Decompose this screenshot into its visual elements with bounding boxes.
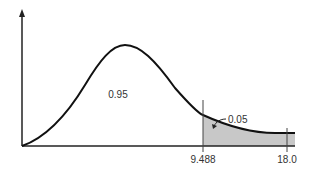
density-curve — [22, 45, 295, 146]
chi-square-chart: 0.95 0.05 9.488 18.0 — [0, 0, 314, 174]
tick-label-critical: 9.488 — [190, 154, 215, 165]
tick-label-right: 18.0 — [277, 154, 297, 165]
center-area-label: 0.95 — [108, 89, 128, 100]
y-axis-arrow-icon — [19, 9, 25, 17]
tail-area-label: 0.05 — [228, 114, 248, 125]
